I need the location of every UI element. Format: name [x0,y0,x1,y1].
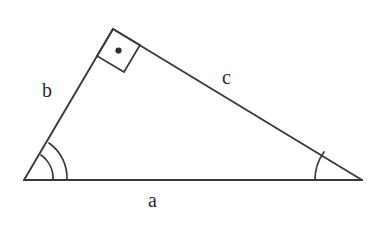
side-label-c: c [222,67,231,87]
left-angle-arc-outer [49,143,67,180]
triangle-svg-canvas [0,0,384,226]
right-angle-dot-icon [115,47,121,53]
side-c-hypotenuse-line [113,29,362,180]
side-label-b: b [42,80,52,100]
left-angle-arc-inner [41,155,53,180]
right-triangle-diagram: a b c [0,0,384,226]
side-label-a: a [148,190,157,210]
